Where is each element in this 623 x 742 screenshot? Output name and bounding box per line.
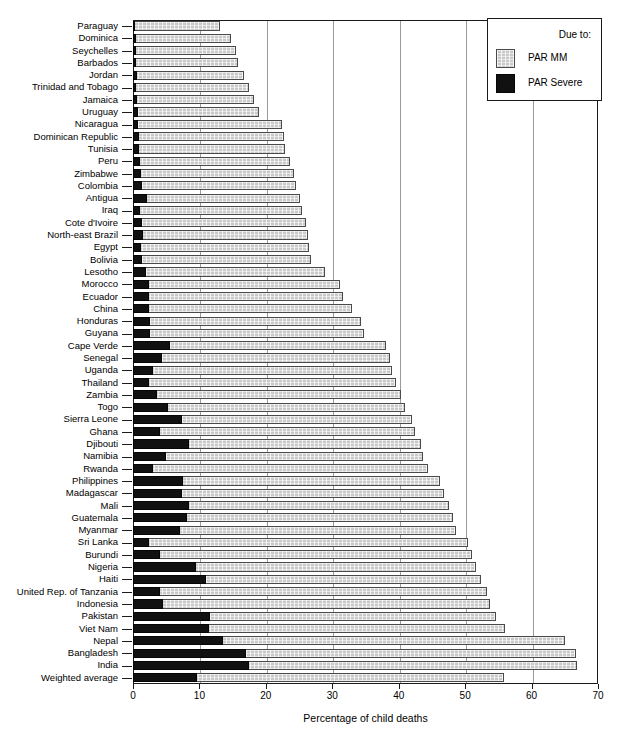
legend-swatch-par-mm-icon <box>496 49 515 68</box>
y-tick <box>122 247 132 248</box>
category-label: Dominican Republic <box>34 131 118 143</box>
table-row <box>133 598 598 610</box>
bar-segment-par-severe <box>133 612 210 621</box>
table-row <box>133 364 598 376</box>
bar-segment-par-mm <box>133 95 254 104</box>
category-label: Senegal <box>83 352 118 364</box>
bar-segment-par-severe <box>133 624 209 633</box>
category-label: Guyana <box>85 327 118 339</box>
bar-segment-par-severe <box>133 550 160 559</box>
y-tick <box>122 161 132 162</box>
y-tick <box>122 579 132 580</box>
bar-segment-par-severe <box>133 427 160 436</box>
stacked-bar <box>133 132 284 141</box>
category-label: Morocco <box>82 278 118 290</box>
bar-segment-par-mm <box>133 206 302 215</box>
table-row <box>133 327 598 339</box>
y-tick <box>122 75 132 76</box>
table-row <box>133 229 598 241</box>
bar-segment-par-severe <box>133 255 142 264</box>
bar-segment-par-mm <box>133 218 306 227</box>
stacked-bar <box>133 661 577 670</box>
bar-segment-par-severe <box>133 58 136 67</box>
category-label: Paraguay <box>77 20 118 32</box>
table-row <box>133 204 598 216</box>
table-row <box>133 450 598 462</box>
stacked-bar <box>133 218 306 227</box>
bar-segment-par-severe <box>133 218 142 227</box>
stacked-bar <box>133 329 364 338</box>
stacked-bar-chart: ParaguayDominicaSeychellesBarbadosJordan… <box>0 0 623 742</box>
category-label: Cape Verde <box>68 340 118 352</box>
y-tick <box>122 444 132 445</box>
x-tick-label: 20 <box>246 690 286 701</box>
stacked-bar <box>133 599 490 608</box>
bar-segment-par-mm <box>133 83 249 92</box>
bar-segment-par-severe <box>133 107 138 116</box>
x-tick-label: 50 <box>445 690 485 701</box>
y-tick <box>122 543 132 544</box>
table-row <box>133 487 598 499</box>
table-row <box>133 377 598 389</box>
bar-segment-par-severe <box>133 21 135 30</box>
bar-segment-par-severe <box>133 390 157 399</box>
category-label: Ghana <box>89 426 118 438</box>
category-label: Weighted average <box>41 672 118 684</box>
y-tick <box>122 592 132 593</box>
bar-segment-par-mm <box>133 390 401 399</box>
category-label: Pakistan <box>82 610 118 622</box>
y-tick <box>122 432 132 433</box>
stacked-bar <box>133 378 396 387</box>
category-label: Colombia <box>78 180 118 192</box>
bar-segment-par-mm <box>133 169 294 178</box>
table-row <box>133 192 598 204</box>
table-row <box>133 180 598 192</box>
bar-segment-par-mm <box>133 341 386 350</box>
legend-item-par-mm: PAR MM <box>496 49 603 71</box>
bar-segment-par-severe <box>133 181 142 190</box>
table-row <box>133 155 598 167</box>
category-label: Bangladesh <box>68 647 118 659</box>
category-label: North-east Brazil <box>47 229 118 241</box>
x-axis-title: Percentage of child deaths <box>133 712 598 724</box>
bar-segment-par-mm <box>133 267 325 276</box>
y-tick <box>122 38 132 39</box>
bars-container <box>133 20 598 684</box>
stacked-bar <box>133 95 254 104</box>
table-row <box>133 512 598 524</box>
bar-segment-par-mm <box>133 230 308 239</box>
bar-segment-par-severe <box>133 366 153 375</box>
x-tick <box>133 684 134 689</box>
table-row <box>133 672 598 684</box>
category-label: Uruguay <box>82 106 118 118</box>
category-label: India <box>97 659 118 671</box>
bar-segment-par-mm <box>133 194 300 203</box>
category-label: Viet Nam <box>79 623 118 635</box>
table-row <box>133 536 598 548</box>
y-tick <box>122 457 132 458</box>
table-row <box>133 254 598 266</box>
y-tick <box>122 125 132 126</box>
y-tick <box>122 530 132 531</box>
table-row <box>133 118 598 130</box>
bar-segment-par-severe <box>133 587 160 596</box>
category-label: Togo <box>97 401 118 413</box>
x-tick <box>598 684 599 689</box>
bar-segment-par-severe <box>133 120 138 129</box>
bar-segment-par-severe <box>133 489 182 498</box>
category-label: Zimbabwe <box>74 168 118 180</box>
stacked-bar <box>133 194 300 203</box>
stacked-bar <box>133 366 392 375</box>
stacked-bar <box>133 427 415 436</box>
stacked-bar <box>133 636 565 645</box>
table-row <box>133 241 598 253</box>
y-tick <box>122 666 132 667</box>
legend-label-par-severe: PAR Severe <box>528 77 582 88</box>
x-tick-label: 0 <box>113 690 153 701</box>
stacked-bar <box>133 649 576 658</box>
bar-segment-par-severe <box>133 538 149 547</box>
bar-segment-par-mm <box>133 280 340 289</box>
y-tick <box>122 26 132 27</box>
bar-segment-par-severe <box>133 46 136 55</box>
value-axis-ticks: 010203040506070 <box>133 684 598 690</box>
